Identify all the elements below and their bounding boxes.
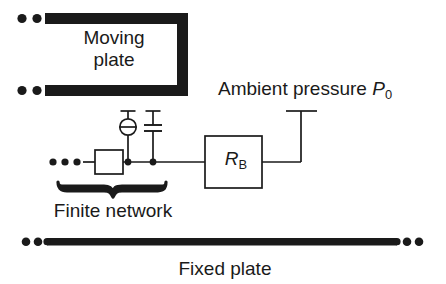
- ambient-pressure-subscript: 0: [385, 87, 392, 102]
- fixed-plate-right-dots-icon: [403, 237, 424, 246]
- fixed-plate-bar: [43, 238, 400, 246]
- capacitor-icon: [144, 111, 162, 162]
- figure-canvas: Moving plate Ambient pressure P0 RB Fini…: [0, 0, 446, 284]
- fixed-plate-left-dots-icon: [22, 237, 43, 246]
- moving-plate-label: Moving plate: [62, 27, 166, 71]
- ambient-pressure-terminal-icon: [286, 111, 317, 162]
- junction-dot-left: [125, 159, 132, 166]
- fixed-plate-label: Fixed plate: [140, 258, 310, 280]
- series-element-box: [95, 150, 123, 174]
- rb-symbol: R: [225, 148, 239, 169]
- ambient-pressure-symbol: P: [372, 78, 385, 99]
- junction-dot-right: [150, 159, 157, 166]
- network-continuation-dots-icon: [49, 158, 80, 165]
- moving-plate-lower-dots-icon: [17, 86, 41, 95]
- finite-network-label: Finite network: [38, 200, 188, 222]
- ambient-pressure-text: Ambient pressure: [218, 78, 372, 99]
- rb-subscript: B: [239, 157, 248, 172]
- moving-plate-label-line2: plate: [62, 49, 166, 71]
- moving-plate-upper-dots-icon: [17, 14, 41, 23]
- rb-label: RB: [210, 148, 262, 172]
- moving-plate-label-line1: Moving: [83, 27, 144, 48]
- finite-network-brace-icon: [58, 182, 166, 197]
- ambient-pressure-label: Ambient pressure P0: [218, 78, 392, 102]
